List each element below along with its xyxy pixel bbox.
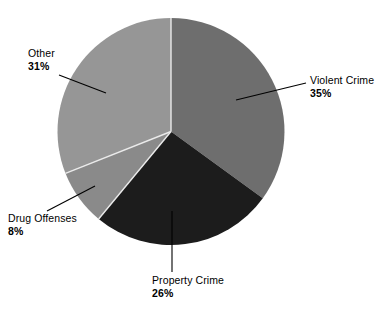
slice-label-property-crime-percent: 26% xyxy=(152,287,224,300)
slice-label-other: Other 31% xyxy=(28,47,55,72)
slice-label-other-percent: 31% xyxy=(28,60,55,73)
slice-label-violent-crime: Violent Crime 35% xyxy=(310,74,374,99)
pie-chart: Other 31% Violent Crime 35% Drug Offense… xyxy=(0,0,383,315)
slice-label-property-crime-name: Property Crime xyxy=(152,274,224,287)
slice-label-drug-offenses: Drug Offenses 8% xyxy=(8,212,77,237)
slice-label-violent-crime-percent: 35% xyxy=(310,87,374,100)
pie-chart-canvas xyxy=(0,0,383,315)
slice-label-property-crime: Property Crime 26% xyxy=(152,274,224,299)
slice-label-violent-crime-name: Violent Crime xyxy=(310,74,374,87)
slice-label-drug-offenses-percent: 8% xyxy=(8,225,77,238)
slice-label-other-name: Other xyxy=(28,47,55,60)
slice-label-drug-offenses-name: Drug Offenses xyxy=(8,212,77,225)
